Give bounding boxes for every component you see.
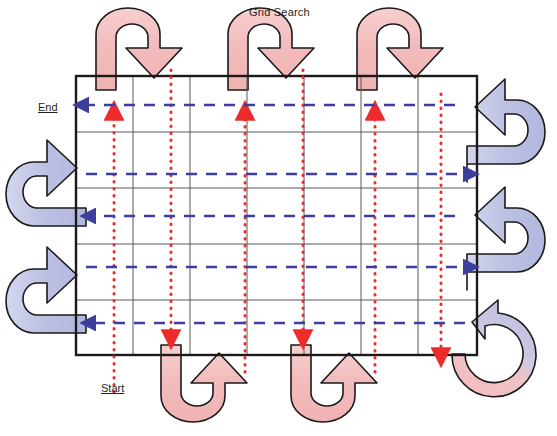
u-turn-bottom-1 [161,345,247,422]
page-title: Grid Search [249,6,310,18]
diagram-canvas [0,0,557,436]
sweep-paths-group [114,70,441,392]
u-turn-top-2 [228,8,314,90]
end-label: End [38,101,58,113]
u-turn-left-1 [6,140,86,226]
u-turn-top-1 [96,8,182,90]
u-turn-corner-bottom-right [452,300,536,397]
start-label: Start [101,382,124,394]
return-paths-group [82,105,470,323]
u-turn-bottom-2 [291,345,377,422]
search-grid [76,76,477,355]
grid-vertical-lines [133,76,418,355]
grid-search-diagram: Grid Search End Start [0,0,557,436]
u-turn-right-1 [467,79,545,182]
u-turn-right-2 [467,187,545,290]
u-turn-arrows-group [6,8,545,422]
u-turn-top-3 [357,8,443,90]
grid-border [76,76,477,355]
u-turn-left-2 [6,247,86,333]
grid-horizontal-lines [76,132,477,300]
